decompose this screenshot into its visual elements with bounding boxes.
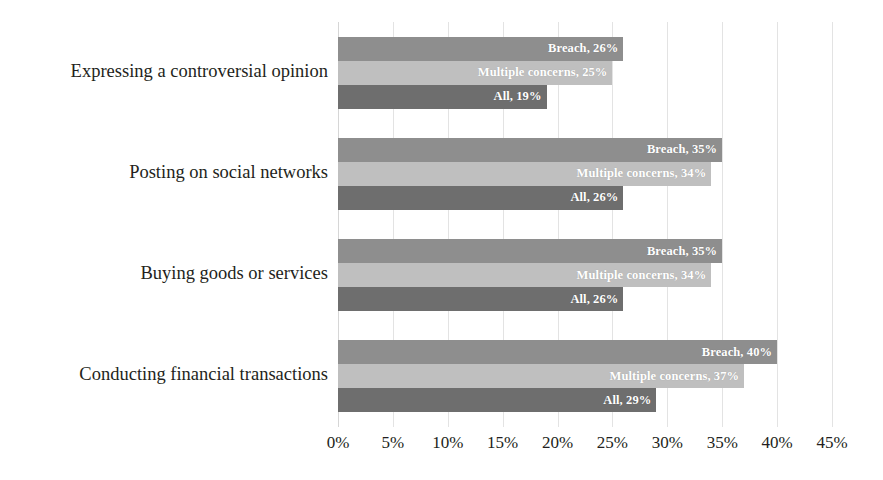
bar-value-label: Breach, 26%: [548, 41, 623, 56]
bar-row: Multiple concerns, 34%: [338, 162, 832, 186]
x-tick-label: 10%: [432, 433, 463, 453]
x-tick-label: 5%: [382, 433, 405, 453]
x-tick-label: 0%: [327, 433, 350, 453]
x-tick-label: 20%: [542, 433, 573, 453]
gridline-45pct: [832, 22, 833, 427]
bar-value-label: All, 29%: [603, 393, 656, 408]
bar-row: Breach, 40%: [338, 340, 832, 364]
bar-group: Breach, 35%Multiple concerns, 34%All, 26…: [338, 239, 832, 311]
bar-value-label: Breach, 40%: [702, 345, 777, 360]
bar-row: Multiple concerns, 34%: [338, 263, 832, 287]
value-axis: 0%5%10%15%20%25%30%35%40%45%: [338, 427, 832, 467]
bar-row: All, 19%: [338, 85, 832, 109]
bar-value-label: All, 26%: [570, 292, 623, 307]
bar-group: Breach, 40%Multiple concerns, 37%All, 29…: [338, 340, 832, 412]
bar-breach[interactable]: Breach, 26%: [338, 37, 623, 61]
bar-breach[interactable]: Breach, 35%: [338, 239, 722, 263]
x-tick-label: 45%: [816, 433, 847, 453]
x-tick-label: 25%: [597, 433, 628, 453]
bar-row: Breach, 35%: [338, 138, 832, 162]
category-label: Expressing a controversial opinion: [8, 61, 338, 82]
bar-multiple-concerns[interactable]: Multiple concerns, 34%: [338, 162, 711, 186]
bar-all[interactable]: All, 26%: [338, 287, 623, 311]
bar-value-label: Multiple concerns, 34%: [577, 166, 712, 181]
category-axis: Expressing a controversial opinionPostin…: [0, 22, 338, 427]
bar-value-label: Multiple concerns, 25%: [478, 65, 613, 80]
bar-group: Breach, 35%Multiple concerns, 34%All, 26…: [338, 138, 832, 210]
bar-row: All, 26%: [338, 287, 832, 311]
bar-chart: Breach, 26%Multiple concerns, 25%All, 19…: [0, 0, 883, 480]
bar-multiple-concerns[interactable]: Multiple concerns, 37%: [338, 364, 744, 388]
bar-multiple-concerns[interactable]: Multiple concerns, 25%: [338, 61, 612, 85]
x-tick-label: 30%: [652, 433, 683, 453]
bar-row: Breach, 35%: [338, 239, 832, 263]
bar-all[interactable]: All, 26%: [338, 186, 623, 210]
bar-row: Multiple concerns, 37%: [338, 364, 832, 388]
bar-value-label: Multiple concerns, 34%: [577, 268, 712, 283]
bar-all[interactable]: All, 19%: [338, 85, 547, 109]
bar-row: Multiple concerns, 25%: [338, 61, 832, 85]
plot-area: Breach, 26%Multiple concerns, 25%All, 19…: [338, 22, 832, 427]
bar-value-label: Multiple concerns, 37%: [610, 369, 745, 384]
bar-value-label: All, 19%: [494, 89, 547, 104]
category-label: Buying goods or services: [8, 263, 338, 284]
x-tick-label: 40%: [762, 433, 793, 453]
bar-breach[interactable]: Breach, 35%: [338, 138, 722, 162]
x-tick-label: 35%: [707, 433, 738, 453]
bar-row: All, 26%: [338, 186, 832, 210]
bar-multiple-concerns[interactable]: Multiple concerns, 34%: [338, 263, 711, 287]
bar-value-label: Breach, 35%: [647, 244, 722, 259]
bar-row: Breach, 26%: [338, 37, 832, 61]
bar-breach[interactable]: Breach, 40%: [338, 340, 777, 364]
bar-value-label: Breach, 35%: [647, 142, 722, 157]
category-label: Conducting financial transactions: [8, 364, 338, 385]
bar-group: Breach, 26%Multiple concerns, 25%All, 19…: [338, 37, 832, 109]
category-label: Posting on social networks: [8, 162, 338, 183]
bar-row: All, 29%: [338, 388, 832, 412]
x-tick-label: 15%: [487, 433, 518, 453]
bar-all[interactable]: All, 29%: [338, 388, 656, 412]
bar-value-label: All, 26%: [570, 190, 623, 205]
